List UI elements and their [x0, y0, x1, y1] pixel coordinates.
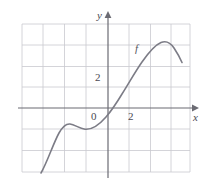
y-tick-label-2: 2: [95, 72, 101, 83]
function-graph-figure: y x 0 2 2 f: [0, 0, 209, 194]
origin-tick-label: 0: [91, 111, 97, 122]
y-axis: [105, 11, 112, 178]
curve-label-f: f: [135, 43, 138, 54]
graph-canvas: [0, 0, 209, 194]
y-axis-label: y: [97, 10, 102, 21]
x-axis-label: x: [193, 112, 198, 123]
y-axis-arrow-icon: [105, 11, 112, 18]
grid-vertical-lines: [22, 24, 190, 172]
function-curve-f: [41, 42, 182, 173]
grid-horizontal-lines: [22, 24, 190, 172]
x-tick-label-2: 2: [128, 111, 134, 122]
